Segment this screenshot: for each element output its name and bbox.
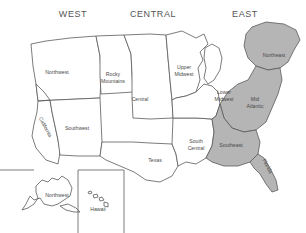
region-label-texas: Texas [148, 157, 162, 163]
region-label-mid-atlantic-line2: Atlantic [246, 103, 263, 109]
inset-shape-aleutians[interactable] [60, 204, 80, 212]
region-label-central: Central [132, 96, 149, 102]
map-svg: Northwest California Rocky Mountains Sou… [0, 0, 306, 233]
region-label-lower-midwest-line1: Lower [217, 89, 231, 95]
region-label-upper-midwest-line1: Upper [177, 64, 191, 70]
region-label-northeast: Northeast [263, 52, 286, 58]
region-shape-northeast[interactable] [244, 22, 300, 70]
inset-shape-hawaii[interactable] [88, 191, 108, 207]
region-shape-texas[interactable] [100, 142, 178, 182]
region-label-northwest: Northwest [45, 69, 69, 75]
inset-label-hawaii: Hawaii [90, 206, 106, 212]
region-label-south-central-line1: South [189, 138, 203, 144]
region-label-rocky-mountains-line1: Rocky [106, 71, 121, 77]
region-shape-michigan[interactable] [204, 44, 222, 84]
region-label-southeast: Southeast [219, 142, 243, 148]
inset-label-alaska: Northwest [45, 192, 69, 198]
region-label-lower-midwest-line2: Midwest [214, 96, 234, 102]
region-label-mid-atlantic-line1: Mid [251, 96, 259, 102]
us-regions-map: WEST CENTRAL EAST [0, 0, 306, 233]
region-label-southwest: Southwest [65, 125, 90, 131]
region-label-upper-midwest-line2: Midwest [174, 71, 194, 77]
region-label-rocky-mountains-line2: Mountains [101, 78, 125, 84]
region-label-south-central-line2: Central [188, 145, 205, 151]
